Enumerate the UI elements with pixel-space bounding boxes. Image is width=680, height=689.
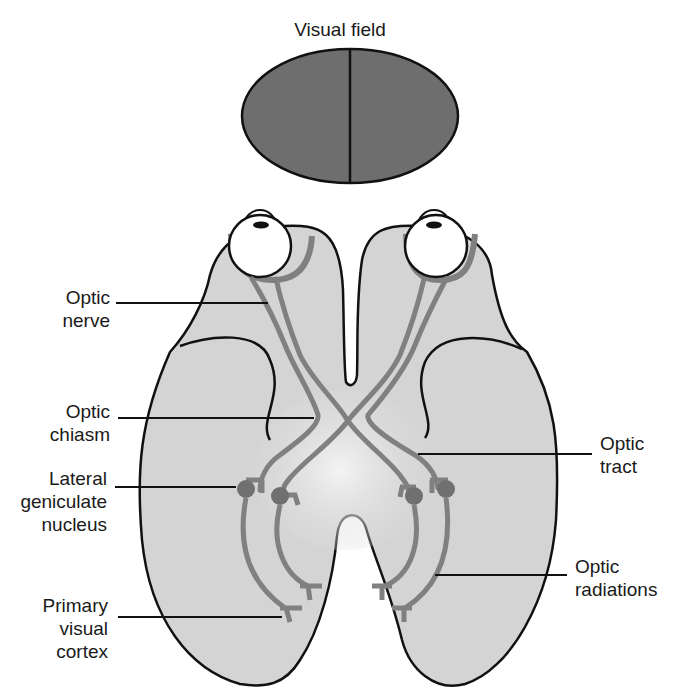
visual-field	[242, 49, 458, 183]
label-optic-chiasm: Optic chiasm	[10, 400, 110, 446]
label-lateral-geniculate-nucleus: Lateral geniculate nucleus	[0, 467, 107, 536]
label-optic-nerve: Optic nerve	[10, 286, 110, 332]
label-optic-tract: Optic tract	[600, 432, 644, 478]
right-eye	[405, 210, 475, 280]
label-optic-radiations: Optic radiations	[575, 555, 657, 601]
label-primary-visual-cortex: Primary visual cortex	[0, 594, 108, 663]
